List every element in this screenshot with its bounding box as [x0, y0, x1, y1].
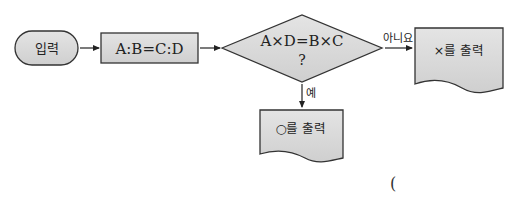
document-shape — [415, 28, 503, 93]
answer-paren: ( — [390, 174, 396, 193]
process-box: A:B=C:D — [101, 33, 198, 63]
start-label: 입력 — [35, 41, 59, 56]
flowchart: 입력 A:B=C:D A×D=B×C ? 아니요 ×를 출력 예 ○를 출력 ( — [0, 0, 508, 198]
yes-output-label: ○를 출력 — [276, 121, 327, 136]
decision-diamond: A×D=B×C ? — [222, 15, 382, 82]
process-label: A:B=C:D — [114, 40, 183, 58]
decision-condition: A×D=B×C — [259, 32, 343, 50]
no-output-label: ×를 출력 — [434, 43, 484, 58]
no-output-document: ×를 출력 — [415, 28, 503, 93]
start-terminal: 입력 — [15, 31, 78, 65]
decision-question-mark: ? — [298, 52, 306, 68]
yes-branch-label: 예 — [306, 87, 316, 100]
no-branch-label: 아니요 — [383, 32, 413, 45]
yes-output-document: ○를 출력 — [260, 110, 343, 162]
